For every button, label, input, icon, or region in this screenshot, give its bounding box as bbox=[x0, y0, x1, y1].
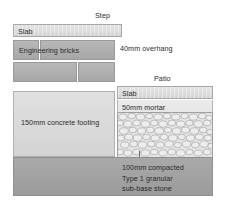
subbase-label-group: 100mm compactedType 1 granularsub-base s… bbox=[122, 163, 184, 195]
subbase-label-line3: sub-base stone bbox=[122, 184, 172, 193]
engineering-brick-row2-left bbox=[13, 62, 77, 82]
engineering-brick-row2-right bbox=[78, 62, 115, 82]
aggregate-stone-block bbox=[117, 113, 213, 157]
subbase-label-line1: 100mm compacted bbox=[122, 163, 184, 172]
subbase-label-line2: Type 1 granular bbox=[122, 174, 173, 183]
step-slab-label: Slab bbox=[18, 27, 33, 36]
overhang-annotation-label: 40mm overhang bbox=[120, 44, 173, 53]
cross-section-diagram: Step Patio Slab 40mm overhang Engineerin… bbox=[0, 0, 226, 209]
mortar-label: 50mm mortar bbox=[122, 103, 165, 112]
engineering-bricks-label: Engineering bricks bbox=[19, 46, 79, 55]
step-title-label: Step bbox=[95, 11, 110, 20]
patio-title-label: Patio bbox=[154, 74, 171, 83]
concrete-footing-label: 150mm concrete footing bbox=[21, 118, 99, 127]
stone-texture-icon bbox=[118, 113, 212, 157]
patio-slab-label: Slab bbox=[122, 89, 137, 98]
